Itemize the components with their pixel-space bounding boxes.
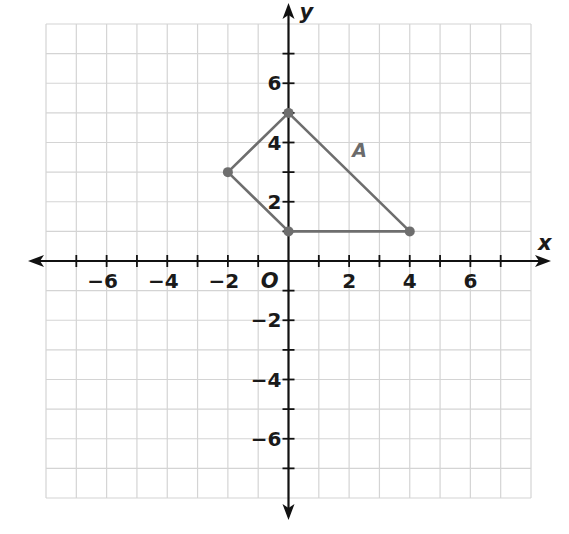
y-tick-label: −6: [251, 427, 282, 451]
y-tick-label: −2: [251, 308, 282, 332]
x-tick-label: 4: [403, 269, 417, 293]
x-tick-label: −6: [87, 269, 118, 293]
coordinate-plane: −6−4−2246642−2−4−6Oxy A: [0, 0, 569, 534]
tick-labels: −6−4−2246642−2−4−6Oxy: [87, 0, 553, 451]
shape-label-A: A: [350, 139, 367, 161]
x-tick-label: −4: [148, 269, 179, 293]
vertex-point: [284, 108, 294, 118]
x-tick-label: 6: [463, 269, 477, 293]
y-tick-label: 2: [268, 190, 282, 214]
vertex-point: [223, 167, 233, 177]
vertex-point: [405, 226, 415, 236]
y-tick-label: −4: [251, 368, 282, 392]
x-axis-label: x: [537, 231, 553, 255]
origin-label: O: [261, 269, 279, 293]
vertex-point: [284, 226, 294, 236]
y-tick-label: 4: [268, 131, 282, 155]
y-tick-label: 6: [268, 71, 282, 95]
x-tick-label: −2: [209, 269, 240, 293]
y-axis-label: y: [300, 0, 315, 24]
x-tick-label: 2: [342, 269, 356, 293]
